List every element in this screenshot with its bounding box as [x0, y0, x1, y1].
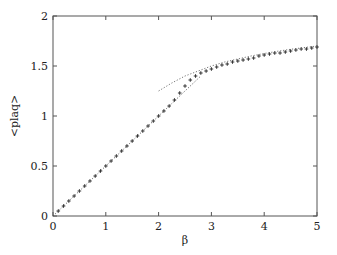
data-point-marker [220, 63, 224, 67]
data-point-marker [204, 69, 208, 73]
x-tick-label: 4 [261, 220, 268, 233]
plot-border [53, 16, 317, 216]
y-tick-label: 1 [41, 110, 48, 123]
y-axis-label: <plaq> [8, 95, 21, 138]
data-point-marker [305, 47, 309, 51]
series-layer [53, 45, 319, 216]
x-tick-label: 0 [50, 220, 57, 233]
data-point-marker [252, 56, 256, 60]
plot-frame [53, 16, 317, 216]
data-point-marker [199, 71, 203, 75]
data-point-marker [268, 52, 272, 56]
y-tick-label: 0.5 [31, 160, 49, 173]
x-tick-label: 1 [102, 220, 109, 233]
y-tick-label: 2 [41, 10, 48, 23]
data-point-marker [257, 54, 261, 58]
series-line [159, 46, 317, 91]
data-point-marker [194, 74, 198, 78]
data-point-marker [225, 62, 229, 66]
x-tick-label: 3 [208, 220, 215, 233]
series-weak-coupling [159, 46, 317, 91]
x-axis-ticks: 012345 [50, 16, 321, 233]
data-point-marker [241, 58, 245, 62]
x-tick-label: 5 [314, 220, 321, 233]
y-axis-ticks: 00.511.52 [31, 10, 318, 223]
data-point-marker [210, 67, 214, 71]
series-data [56, 45, 318, 213]
chart: 012345 00.511.52 β <plaq> [0, 0, 337, 255]
x-axis-label: β [182, 234, 188, 247]
data-point-marker [215, 65, 219, 69]
y-tick-label: 0 [41, 210, 48, 223]
data-point-marker [278, 51, 282, 55]
data-point-marker [178, 91, 182, 95]
data-point-marker [247, 57, 251, 61]
data-point-marker [188, 78, 192, 82]
y-tick-label: 1.5 [31, 60, 49, 73]
data-point-marker [183, 84, 187, 88]
x-tick-label: 2 [155, 220, 162, 233]
